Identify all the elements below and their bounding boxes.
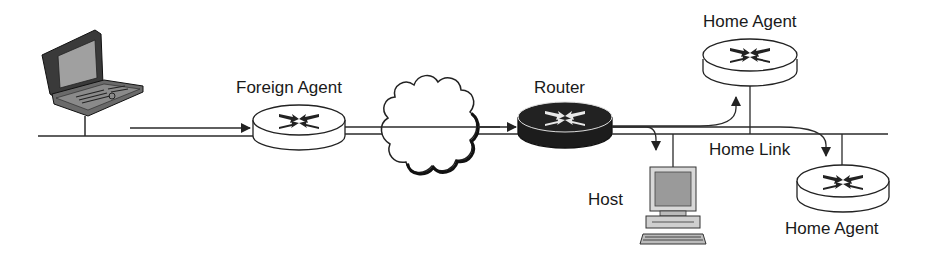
home-agent-top-router-icon xyxy=(703,39,797,86)
host-label: Host xyxy=(588,191,623,208)
foreign-agent-router-icon xyxy=(253,105,345,150)
router-icon xyxy=(518,102,612,148)
router-label: Router xyxy=(534,79,585,96)
foreign-link xyxy=(38,116,258,136)
home-agent-top-label: Home Agent xyxy=(703,13,797,30)
mobile-ip-diagram xyxy=(0,0,935,256)
home-link-label: Home Link xyxy=(709,141,790,158)
home-agent-bottom-label: Home Agent xyxy=(785,220,879,237)
laptop-icon xyxy=(42,30,143,116)
host-desktop-icon xyxy=(640,167,706,244)
internet-cloud-icon xyxy=(381,76,478,174)
foreign-agent-label: Foreign Agent xyxy=(236,79,342,96)
home-agent-bottom-router-icon xyxy=(797,165,889,212)
